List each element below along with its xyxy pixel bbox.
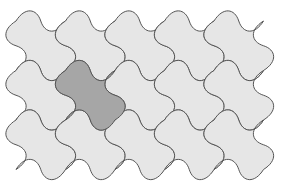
highlighted-tile xyxy=(55,60,125,130)
tile xyxy=(204,110,274,180)
tessellation-figure: Curved-edge square tessellation xyxy=(0,0,281,186)
tessellation-canvas xyxy=(0,0,281,186)
